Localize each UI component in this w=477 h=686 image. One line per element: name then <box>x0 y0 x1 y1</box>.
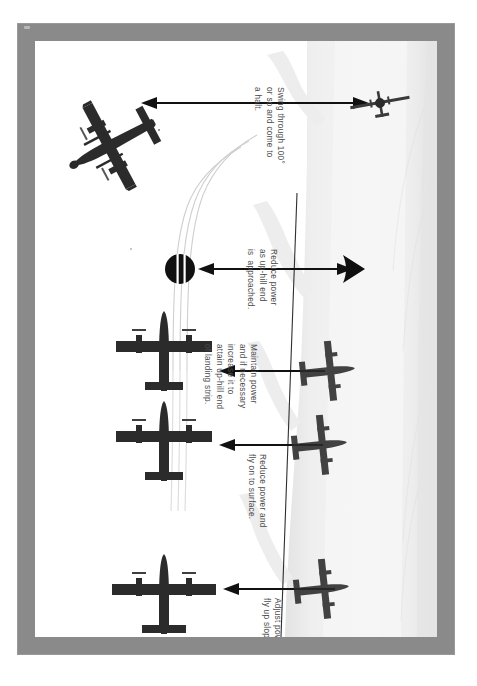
shadow-aircraft-1 <box>291 556 352 621</box>
caption-swing: Swing through 100° or so and come to a h… <box>252 87 286 164</box>
aircraft-step-reduce-surface <box>116 401 212 481</box>
aircraft-step-adjust <box>112 554 216 634</box>
aircraft-on-slope-wedge <box>343 255 365 283</box>
caption-reduce-uphill: Reduce power as up-hill end is approache… <box>245 249 279 309</box>
shadow-aircraft-3 <box>297 338 358 403</box>
aircraft-halted <box>47 79 178 211</box>
figure-layer <box>35 41 437 637</box>
frame-scuff <box>24 26 30 29</box>
illustration-canvas: Swing through 100° or so and come to a h… <box>35 41 437 637</box>
aircraft-step-maintain <box>116 311 212 391</box>
screenshot-page: Swing through 100° or so and come to a h… <box>0 0 477 686</box>
shadow-aircraft-2 <box>289 412 350 477</box>
caption-adjust: Adjust power to fly up slope. <box>260 598 283 637</box>
aircraft-foreshortened-disc <box>165 254 195 284</box>
caption-maintain: Maintain power and if necessary increase… <box>202 344 259 409</box>
scan-speck-2 <box>130 248 132 250</box>
caption-reduce-surface: Reduce power and fly on to surface. <box>245 454 268 528</box>
scan-speck-1 <box>158 129 160 131</box>
